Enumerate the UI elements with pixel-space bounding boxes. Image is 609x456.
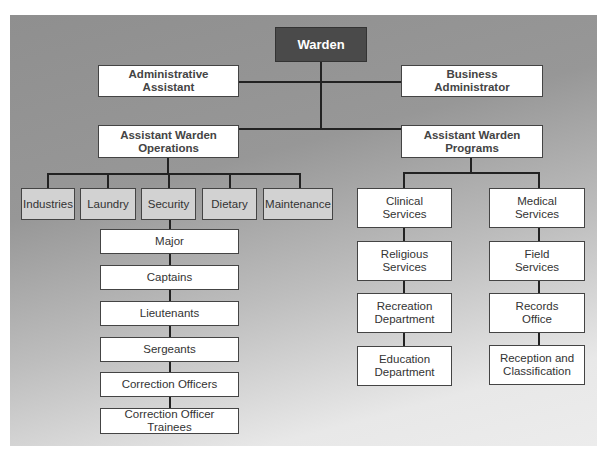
connector-dietary (229, 173, 231, 188)
box-label: Administrative Assistant (129, 68, 209, 94)
business-administrator-box[interactable]: Business Administrator (401, 65, 543, 97)
box-label: Field Services (515, 248, 559, 274)
box-label: Assistant Warden Programs (424, 129, 521, 155)
connector-laundry (107, 173, 109, 188)
box-label: Religious Services (381, 248, 428, 274)
box-label: Education Department (374, 353, 434, 379)
administrative-assistant-box[interactable]: Administrative Assistant (98, 65, 239, 97)
connector-industries (47, 173, 49, 188)
box-label: Clinical Services (382, 195, 426, 221)
assistant-warden-operations-box[interactable]: Assistant Warden Operations (98, 125, 239, 158)
lieutenants-box[interactable]: Lieutenants (100, 301, 239, 326)
industries-box[interactable]: Industries (21, 188, 75, 220)
connector-maintenance (299, 173, 301, 188)
box-label: Records Office (516, 300, 559, 326)
major-box[interactable]: Major (100, 229, 239, 254)
box-label: Laundry (87, 198, 129, 211)
clinical-services-box[interactable]: Clinical Services (357, 188, 452, 228)
recreation-department-box[interactable]: Recreation Department (357, 293, 452, 333)
maintenance-box[interactable]: Maintenance (263, 188, 333, 220)
warden-box[interactable]: Warden (275, 27, 367, 62)
religious-services-box[interactable]: Religious Services (357, 241, 452, 281)
box-label: Security (148, 198, 190, 211)
medical-services-box[interactable]: Medical Services (489, 188, 585, 228)
box-label: Sergeants (143, 343, 195, 356)
connector-operations-down (167, 157, 169, 174)
dietary-box[interactable]: Dietary (202, 188, 257, 220)
security-box[interactable]: Security (141, 188, 196, 220)
field-services-box[interactable]: Field Services (489, 241, 585, 281)
reception-classification-box[interactable]: Reception and Classification (489, 345, 585, 385)
box-label: Correction Officers (122, 378, 218, 391)
connector-security (168, 173, 170, 188)
sergeants-box[interactable]: Sergeants (100, 337, 239, 362)
laundry-box[interactable]: Laundry (80, 188, 136, 220)
box-label: Maintenance (265, 198, 331, 211)
connector-programs-split (403, 172, 540, 174)
education-department-box[interactable]: Education Department (357, 346, 452, 386)
box-label: Dietary (211, 198, 247, 211)
box-label: Lieutenants (140, 307, 199, 320)
box-label: Industries (23, 198, 73, 211)
connector-departments (47, 173, 300, 175)
box-label: Business Administrator (434, 68, 509, 94)
warden-label: Warden (297, 38, 344, 51)
box-label: Medical Services (515, 195, 559, 221)
correction-officers-box[interactable]: Correction Officers (100, 372, 239, 397)
box-label: Recreation Department (374, 300, 434, 326)
connector-staff (238, 81, 402, 83)
records-office-box[interactable]: Records Office (489, 293, 585, 333)
captains-box[interactable]: Captains (100, 265, 239, 290)
connector-programs-down (470, 157, 472, 173)
box-label: Reception and Classification (500, 352, 574, 378)
correction-officer-trainees-box[interactable]: Correction Officer Trainees (100, 408, 239, 434)
box-label: Correction Officer Trainees (101, 408, 238, 434)
assistant-warden-programs-box[interactable]: Assistant Warden Programs (401, 125, 543, 158)
box-label: Captains (147, 271, 192, 284)
box-label: Major (155, 235, 184, 248)
box-label: Assistant Warden Operations (120, 129, 217, 155)
